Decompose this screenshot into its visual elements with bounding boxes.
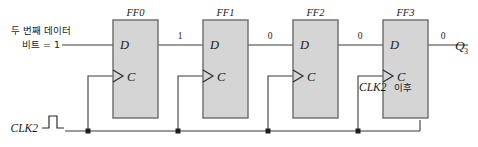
clock-branch-ff2 [268, 76, 293, 131]
flipflop-box-ff1 [203, 20, 248, 118]
clock-branch-ff0 [88, 76, 113, 131]
diagram-canvas: FF0 FF1 FF2 FF3 D D D D C C C C 1 0 0 0 [0, 0, 478, 147]
clock-branch-ff1 [178, 76, 203, 131]
flipflop-label-ff2: FF2 [305, 7, 325, 18]
clock-waveform-pulse [42, 116, 64, 128]
flipflop-label-ff3: FF3 [395, 7, 414, 18]
pin-label-d-ff3: D [389, 38, 399, 52]
junction-dot-ff0 [86, 129, 91, 134]
junction-dot-ff2 [266, 129, 271, 134]
pin-label-c-ff1: C [217, 70, 226, 84]
input-annotation-line1: 두 번째 데이터 [11, 25, 71, 36]
pin-label-c-ff2: C [307, 70, 316, 84]
wire-value-ff1-to-ff2: 0 [268, 31, 273, 41]
junction-dot-ff3 [356, 129, 361, 134]
shift-register-diagram: FF0 FF1 FF2 FF3 D D D D C C C C 1 0 0 0 [0, 0, 478, 147]
flipflop-box-ff0 [113, 20, 158, 118]
wire-value-ff0-to-ff1: 1 [178, 31, 183, 41]
flipflop-box-ff3 [383, 20, 428, 118]
wire-value-ff3-output: 0 [441, 31, 446, 41]
output-label-q-subscript: 3 [464, 47, 468, 56]
pin-label-d-ff1: D [209, 38, 219, 52]
wire-value-ff2-to-ff3: 0 [358, 31, 363, 41]
pin-label-d-ff0: D [119, 38, 129, 52]
clock-label: CLK2 [11, 122, 39, 134]
pin-label-c-ff0: C [127, 70, 136, 84]
flipflop-box-ff2 [293, 20, 338, 118]
flipflop-label-ff1: FF1 [215, 7, 234, 18]
input-annotation-line2: 비트 = 1 [22, 39, 60, 50]
note-korean-text: 이후 [394, 82, 412, 93]
junction-dot-ff1 [176, 129, 181, 134]
note-clock-text: CLK2 [359, 81, 387, 93]
pin-label-d-ff2: D [299, 38, 309, 52]
flipflop-label-ff0: FF0 [125, 7, 145, 18]
